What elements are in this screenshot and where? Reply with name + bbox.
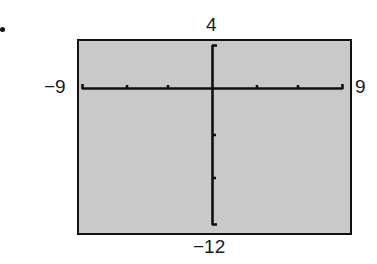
axes — [0, 0, 377, 264]
xmin-label: −9 — [44, 77, 66, 97]
ymax-label: 4 — [206, 15, 217, 35]
y-axis — [212, 45, 217, 225]
xmax-label: 9 — [355, 77, 366, 97]
ymin-label: −12 — [193, 237, 225, 257]
